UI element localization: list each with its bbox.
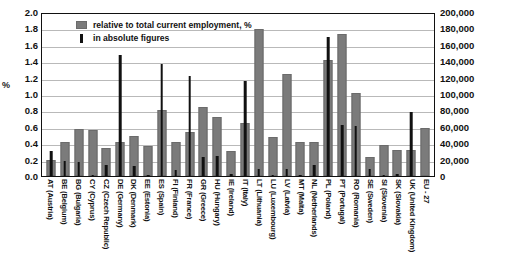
y-tick-right: 40,000 <box>440 139 469 149</box>
x-axis-label: SK (Slovakia) <box>394 179 403 225</box>
bar-slot <box>58 14 72 176</box>
bar-relative <box>393 150 402 176</box>
y-tick-right: 100,000 <box>440 90 474 100</box>
y-tick-left: 1.4 <box>12 57 38 67</box>
chart-legend: relative to total current employment, % … <box>76 20 252 46</box>
bar-absolute <box>119 55 122 176</box>
bar-relative <box>143 146 152 176</box>
bar-relative <box>268 137 277 176</box>
x-label-slot: SI (Slovenia) <box>377 179 391 257</box>
y-tick-right: 180,000 <box>440 24 474 34</box>
x-label-slot: FR (France) <box>182 179 196 257</box>
bar-relative <box>282 74 291 177</box>
x-axis-label: CZ (Czech Republic) <box>101 179 110 249</box>
bar-slot <box>418 14 432 176</box>
y-tick-left: 1.0 <box>12 90 38 100</box>
bar-absolute <box>299 175 302 177</box>
x-axis-label: SE (Sweden) <box>366 179 375 223</box>
x-label-slot: IT (Italy) <box>238 179 252 257</box>
y-tick-right: 20,000 <box>440 156 469 166</box>
y-tick-right: 120,000 <box>440 74 474 84</box>
bar-absolute <box>202 157 205 176</box>
bar-slot <box>44 14 58 176</box>
y-tick-left: 2.0 <box>12 8 38 18</box>
y-tick-left: 0.2 <box>12 156 38 166</box>
x-label-slot: AT (Austria) <box>43 179 57 257</box>
x-label-slot: FI (Finland) <box>168 179 182 257</box>
y-tick-right: 0 <box>440 172 445 182</box>
y-tick-left: 1.6 <box>12 41 38 51</box>
x-axis-label: EE (Estonia) <box>143 179 152 221</box>
bar-slot <box>252 14 266 176</box>
x-axis-label: SI (Slovenia) <box>380 179 389 222</box>
black-bar-swatch-icon <box>76 34 87 43</box>
x-axis-label: NL (Netherlands) <box>310 179 319 237</box>
y-tick-left: 0.0 <box>12 172 38 182</box>
x-axis-label: FI (Finland) <box>171 179 180 218</box>
x-axis-label: ES (Spain) <box>157 179 166 215</box>
bar-absolute <box>161 64 164 176</box>
x-axis-labels: AT (Austria)BE (Belgium)BG (Bulgaria)CY … <box>41 179 435 257</box>
y-tick-left: 0.6 <box>12 123 38 133</box>
x-axis-label: AT (Austria) <box>45 179 54 220</box>
bar-relative <box>254 29 263 176</box>
y-tick-right: 60,000 <box>440 123 469 133</box>
x-axis-label: IT (Italy) <box>240 179 249 206</box>
bar-absolute <box>382 175 385 177</box>
bar-absolute <box>341 125 344 176</box>
x-label-slot: IE (Ireland) <box>224 179 238 257</box>
bar-absolute <box>50 151 53 176</box>
legend-item-absolute: in absolute figures <box>76 33 252 43</box>
y-tick-left: 0.8 <box>12 106 38 116</box>
bar-slot <box>363 14 377 176</box>
x-label-slot: DE (Germany) <box>113 179 127 257</box>
x-label-slot: LV (Latvia) <box>280 179 294 257</box>
x-label-slot: LT (Lithuania) <box>252 179 266 257</box>
bar-absolute <box>188 76 191 176</box>
x-label-slot: UK (United Kingdom) <box>405 179 419 257</box>
bar-absolute <box>147 175 150 177</box>
bar-absolute <box>63 161 66 176</box>
bar-absolute <box>285 169 288 176</box>
x-label-slot: GR (Greece) <box>196 179 210 257</box>
bar-relative <box>421 128 430 176</box>
bar-absolute <box>174 170 177 176</box>
bar-absolute <box>77 162 80 176</box>
x-label-slot: BE (Belgium) <box>57 179 71 257</box>
x-label-slot: HU (Hungary) <box>210 179 224 257</box>
bar-absolute <box>368 169 371 176</box>
x-label-slot: CZ (Czech Republic) <box>99 179 113 257</box>
bar-slot <box>321 14 335 176</box>
bar-absolute <box>396 174 399 176</box>
y-axis-left-title: % <box>2 80 10 90</box>
x-label-slot: DK (Denmark) <box>127 179 141 257</box>
bar-relative <box>227 151 236 176</box>
chart-container: % 2.01.81.61.41.21.00.80.60.40.20.0 200,… <box>0 0 525 257</box>
bar-slot <box>293 14 307 176</box>
bar-absolute <box>133 166 136 176</box>
bar-slot <box>349 14 363 176</box>
bar-relative <box>296 142 305 176</box>
bar-absolute <box>327 37 330 176</box>
bar-slot <box>280 14 294 176</box>
y-tick-right: 140,000 <box>440 57 474 67</box>
x-axis-label: DK (Denmark) <box>129 179 138 227</box>
x-label-slot: MT (Malta) <box>294 179 308 257</box>
x-axis-label: HU (Hungary) <box>213 179 222 226</box>
bar-absolute <box>271 175 274 177</box>
x-axis-label: BE (Belgium) <box>59 179 68 224</box>
bar-slot <box>390 14 404 176</box>
x-label-slot: BG (Bulgaria) <box>71 179 85 257</box>
x-axis-label: LU (Luxembourg) <box>268 179 277 239</box>
x-label-slot: NL (Netherlands) <box>308 179 322 257</box>
x-label-slot: PL (Poland) <box>321 179 335 257</box>
x-label-slot: SK (Slovakia) <box>391 179 405 257</box>
x-label-slot: ES (Spain) <box>154 179 168 257</box>
bar-absolute <box>105 165 108 176</box>
x-axis-label: CY (Cyprus) <box>87 179 96 221</box>
x-label-slot: SE (Sweden) <box>363 179 377 257</box>
legend-item-relative-label: relative to total current employment, % <box>93 20 252 30</box>
legend-item-absolute-label: in absolute figures <box>93 33 169 43</box>
bar-absolute <box>410 112 413 176</box>
x-axis-label: MT (Malta) <box>296 179 305 215</box>
